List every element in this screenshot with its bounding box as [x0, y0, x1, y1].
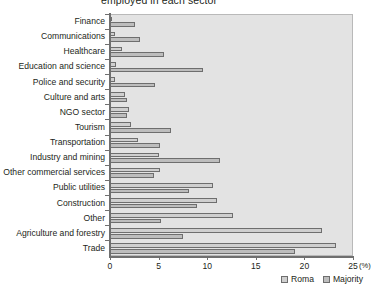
category-label-transportation: Transportation [0, 135, 105, 150]
category-label-other: Other [0, 211, 105, 226]
x-axis-tick-label: 15 [241, 261, 271, 271]
x-axis-tick [207, 256, 208, 260]
y-axis-tick [105, 44, 109, 45]
bar-row: Culture and arts [0, 90, 390, 105]
category-label-other-commercial-services: Other commercial services [0, 165, 105, 180]
bar-row: NGO sector [0, 105, 390, 120]
legend-swatch-majority [323, 276, 330, 283]
x-axis-tick [110, 256, 111, 260]
bar-row: Police and security [0, 75, 390, 90]
bar-majority [110, 189, 189, 194]
bar-row: Industry and mining [0, 150, 390, 165]
bar-roma [110, 32, 115, 37]
bar-majority [110, 37, 140, 42]
bar-roma [110, 107, 129, 112]
bar-row: Communications [0, 29, 390, 44]
bar-roma [110, 153, 159, 158]
category-label-culture-and-arts: Culture and arts [0, 90, 105, 105]
legend-label-majority: Majority [333, 274, 363, 284]
bar-majority [110, 204, 197, 209]
bar-roma [110, 183, 213, 188]
bar-row: Trade [0, 241, 390, 256]
category-label-construction: Construction [0, 196, 105, 211]
y-axis-tick [105, 104, 109, 105]
y-axis-tick [105, 210, 109, 211]
y-axis-tick [105, 240, 109, 241]
bar-majority [110, 234, 183, 239]
y-axis-tick [105, 89, 109, 90]
chart-legend: Roma Majority [281, 274, 363, 284]
bar-roma [110, 17, 112, 22]
category-label-police-and-security: Police and security [0, 75, 105, 90]
x-axis-tick [353, 256, 354, 260]
bar-row: Healthcare [0, 44, 390, 59]
bar-roma [110, 62, 116, 67]
category-label-ngo-sector: NGO sector [0, 105, 105, 120]
legend-swatch-roma [281, 276, 288, 283]
bar-roma [110, 198, 217, 203]
bar-majority [110, 143, 160, 148]
category-label-communications: Communications [0, 29, 105, 44]
category-label-tourism: Tourism [0, 120, 105, 135]
y-axis-tick [105, 180, 109, 181]
bar-row: Education and science [0, 59, 390, 74]
bar-row: Finance [0, 14, 390, 29]
chart-title: employed in each sector [101, 0, 381, 6]
x-axis-tick-label: 10 [192, 261, 222, 271]
category-label-healthcare: Healthcare [0, 44, 105, 59]
bar-majority [110, 68, 203, 73]
bar-row: Tourism [0, 120, 390, 135]
y-axis-tick [105, 119, 109, 120]
x-axis-unit-label: (%) [359, 261, 371, 270]
bar-roma [110, 243, 336, 248]
bar-row: Other commercial services [0, 165, 390, 180]
bar-roma [110, 77, 115, 82]
bar-majority [110, 83, 155, 88]
x-axis-tick [256, 256, 257, 260]
legend-item-majority: Majority [323, 274, 363, 284]
x-axis-tick-label: 20 [289, 261, 319, 271]
bar-majority [110, 158, 220, 163]
bar-roma [110, 47, 122, 52]
y-axis-tick [105, 59, 109, 60]
bar-majority [110, 249, 295, 254]
bar-majority [110, 128, 171, 133]
x-axis-line [109, 256, 354, 258]
legend-item-roma: Roma [281, 274, 314, 284]
y-axis-tick [105, 225, 109, 226]
bar-roma [110, 168, 160, 173]
y-axis-tick [105, 74, 109, 75]
bar-majority [110, 113, 127, 118]
category-label-trade: Trade [0, 241, 105, 256]
bar-row: Transportation [0, 135, 390, 150]
bar-majority [110, 173, 154, 178]
category-label-agriculture-and-forestry: Agriculture and forestry [0, 226, 105, 241]
y-axis-tick [105, 135, 109, 136]
y-axis-tick [105, 14, 109, 15]
bar-roma [110, 213, 233, 218]
x-axis-tick-label: 0 [95, 261, 125, 271]
legend-label-roma: Roma [291, 274, 314, 284]
bar-row: Other [0, 211, 390, 226]
category-label-industry-and-mining: Industry and mining [0, 150, 105, 165]
bar-majority [110, 98, 127, 103]
bar-roma [110, 122, 131, 127]
bar-roma [110, 138, 138, 143]
bar-majority [110, 22, 135, 27]
y-axis-tick [105, 195, 109, 196]
bar-row: Agriculture and forestry [0, 226, 390, 241]
y-axis-tick [105, 165, 109, 166]
bar-row: Public utilities [0, 180, 390, 195]
x-axis-tick-label: 5 [144, 261, 174, 271]
bar-majority [110, 219, 161, 224]
category-label-public-utilities: Public utilities [0, 180, 105, 195]
bar-roma [110, 228, 322, 233]
bar-row: Construction [0, 196, 390, 211]
bar-roma [110, 92, 125, 97]
category-label-education-and-science: Education and science [0, 59, 105, 74]
category-label-finance: Finance [0, 14, 105, 29]
x-axis-tick [304, 256, 305, 260]
bar-majority [110, 52, 164, 57]
bar-chart-figure: employed in each sector FinanceCommunica… [0, 0, 390, 290]
x-axis-tick [159, 256, 160, 260]
